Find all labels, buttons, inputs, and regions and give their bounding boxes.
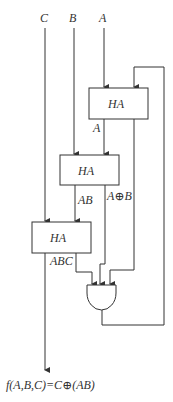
signal-label-ab: AB	[77, 193, 93, 207]
half-adder-circuit-diagram: C B A HA A HA AB A⊕B HA ABC f(A,B,C)=C⊕(…	[0, 0, 173, 402]
wire-abc	[76, 253, 92, 284]
signal-label-a: A	[92, 121, 101, 135]
signal-label-a-xor-b: A⊕B	[106, 189, 132, 203]
output-formula: f(A,B,C)=C⊕(AB)	[6, 378, 95, 392]
half-adder-top-label: HA	[107, 97, 125, 111]
input-label-a: A	[98, 11, 107, 25]
input-label-c: C	[40, 11, 49, 25]
wire-a-xor-b	[100, 185, 105, 284]
input-label-b: B	[69, 11, 77, 25]
and-gate	[87, 285, 116, 310]
half-adder-middle-label: HA	[77, 164, 95, 178]
half-adder-bottom-label: HA	[49, 231, 67, 245]
signal-label-abc: ABC	[49, 254, 74, 268]
